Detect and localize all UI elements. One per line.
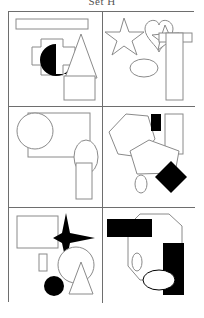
thin-rectangle-shape	[16, 19, 88, 29]
tall-rectangle-shape	[166, 33, 183, 100]
panel-1-canvas	[9, 12, 103, 107]
panel-middle-right	[103, 107, 195, 208]
small-ellipse-shape	[132, 253, 142, 271]
panel-5-canvas	[9, 208, 103, 303]
rectangle-shape	[64, 76, 95, 100]
circle-shape	[17, 113, 53, 149]
panel-bottom-left	[9, 208, 103, 303]
figure-caption: Set H	[0, 0, 204, 6]
black-horizontal-rectangle-shape	[107, 219, 152, 237]
vertical-rectangle-shape	[76, 163, 92, 199]
figure-frame	[8, 11, 194, 302]
ellipse-shape	[130, 59, 158, 77]
panel-3-canvas	[9, 107, 103, 208]
panel-top-left	[9, 12, 103, 107]
white-ellipse-shape	[143, 270, 175, 290]
small-rectangle-shape	[39, 254, 47, 271]
small-black-rectangle-shape	[151, 114, 161, 131]
panel-2-canvas	[103, 12, 195, 107]
large-star-shape	[105, 18, 144, 55]
panel-4-canvas	[103, 107, 195, 208]
black-circle-shape	[44, 276, 64, 296]
small-ellipse-shape	[135, 175, 147, 193]
rectangle-shape	[17, 216, 58, 248]
panel-middle-left	[9, 107, 103, 208]
panel-top-right	[103, 12, 195, 107]
panel-6-canvas	[103, 208, 195, 303]
panel-bottom-right	[103, 208, 195, 303]
